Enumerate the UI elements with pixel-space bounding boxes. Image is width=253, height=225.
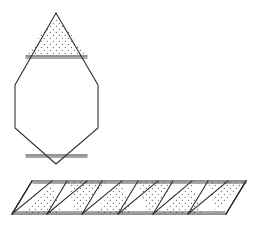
geometry-canvas xyxy=(0,0,253,225)
triangle-strip-figure xyxy=(12,181,246,214)
figure-root: Hexagonal antiprism net xyxy=(0,0,253,225)
